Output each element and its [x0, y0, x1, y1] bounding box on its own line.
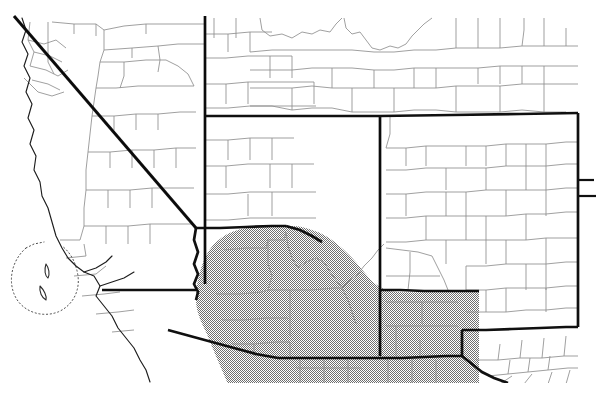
figure-caption: [0, 393, 602, 402]
right-margin: [596, 0, 602, 402]
top-margin: [0, 0, 602, 15]
map-region: [0, 0, 602, 402]
left-margin: [0, 0, 6, 402]
map-figure: Southwestern United States distribution …: [0, 0, 602, 402]
